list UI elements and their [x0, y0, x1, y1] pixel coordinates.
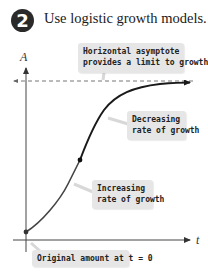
asymptote-callout-line1: Horizontal asymptote: [83, 46, 179, 57]
decreasing-callout-line2: rate of growth: [132, 125, 181, 136]
curve-increasing-segment: [26, 160, 80, 232]
x-axis-label: t: [196, 233, 199, 248]
asymptote-pointer: [103, 73, 104, 80]
increasing-callout-line1: Increasing: [97, 183, 148, 194]
increasing-pointer: [74, 184, 93, 192]
original-amount-callout: Original amount at t = 0: [32, 250, 129, 267]
y-axis-label: A: [20, 50, 27, 65]
initial-value-point: [24, 230, 29, 235]
asymptote-left-arrow-icon: [13, 79, 18, 83]
original-callout-text: Original amount at t = 0: [37, 253, 124, 264]
increasing-rate-callout: Increasing rate of growth: [92, 180, 153, 209]
decreasing-rate-callout: Decreasing rate of growth: [127, 111, 186, 140]
decreasing-pointer: [108, 118, 128, 124]
asymptote-callout-line2: provides a limit to growth.: [83, 57, 179, 68]
increasing-callout-line2: rate of growth: [97, 194, 148, 205]
asymptote-callout: Horizontal asymptote provides a limit to…: [78, 43, 184, 73]
inflection-point: [78, 158, 83, 163]
decreasing-callout-line1: Decreasing: [132, 114, 181, 125]
